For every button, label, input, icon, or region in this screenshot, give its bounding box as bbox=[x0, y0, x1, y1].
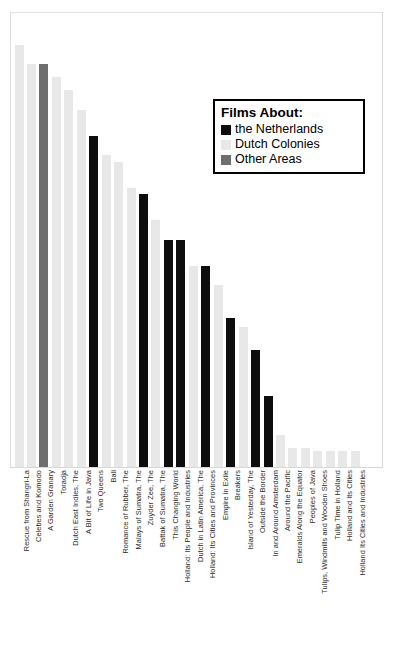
legend-entry: Dutch Colonies bbox=[221, 137, 357, 152]
legend-entries: the NetherlandsDutch ColoniesOther Areas bbox=[221, 122, 357, 167]
legend-entry-label: Dutch Colonies bbox=[235, 137, 320, 152]
x-tick-label: Bali bbox=[109, 470, 118, 640]
legend-entry-label: Other Areas bbox=[235, 152, 302, 167]
bar bbox=[326, 451, 335, 467]
bar bbox=[39, 64, 48, 467]
legend-color-swatch bbox=[221, 155, 231, 165]
bar bbox=[151, 220, 160, 467]
bar bbox=[189, 266, 198, 468]
bar bbox=[251, 350, 260, 467]
bar bbox=[226, 318, 235, 468]
legend-entry: Other Areas bbox=[221, 152, 357, 167]
x-tick-label: Malays of Sumatra, The bbox=[134, 470, 143, 640]
bar bbox=[77, 110, 86, 468]
x-tick-label: Zuyder Zee, The bbox=[146, 470, 155, 640]
bar bbox=[176, 240, 185, 468]
bar bbox=[338, 451, 347, 467]
x-tick-label: Holland and Its Cities bbox=[345, 470, 354, 640]
x-tick-label: Celebes and Komodo bbox=[34, 470, 43, 640]
bar bbox=[276, 435, 285, 468]
bar bbox=[288, 448, 297, 468]
bar bbox=[301, 448, 310, 468]
bar-series-container bbox=[11, 13, 382, 467]
x-tick-label: A Garden Granary bbox=[46, 470, 55, 640]
legend-color-swatch bbox=[221, 140, 231, 150]
bar bbox=[89, 136, 98, 468]
x-tick-label: Around the Pacific bbox=[283, 470, 292, 640]
x-tick-label: Island of Yesterday, The bbox=[246, 470, 255, 640]
x-tick-label: Rescue from Shangri-La bbox=[22, 470, 31, 640]
x-tick-label: Tulip Time in Holland bbox=[333, 470, 342, 640]
x-tick-label: Peoples of Java bbox=[308, 470, 317, 640]
bar bbox=[201, 266, 210, 468]
x-tick-label: Empire in Exile bbox=[221, 470, 230, 640]
x-tick-label: In and Around Amsterdam bbox=[271, 470, 280, 640]
bar bbox=[214, 285, 223, 467]
bar bbox=[102, 155, 111, 467]
bar bbox=[139, 194, 148, 467]
x-tick-label: A Bit of Life in Java bbox=[84, 470, 93, 640]
bar bbox=[351, 451, 360, 467]
x-tick-label: Emeralds Along the Equator bbox=[295, 470, 304, 640]
x-axis-tick-labels: Rescue from Shangri-LaCelebes and Komodo… bbox=[10, 470, 383, 645]
x-tick-label: Dutch East Indies, The bbox=[71, 470, 80, 640]
plot-area bbox=[10, 12, 383, 468]
bar bbox=[127, 188, 136, 468]
x-tick-label: Holland Its Cities and Industries bbox=[358, 470, 367, 640]
bar bbox=[27, 64, 36, 467]
bar bbox=[313, 451, 322, 467]
x-tick-label: Romance of Rubber, The bbox=[121, 470, 130, 640]
bar bbox=[164, 240, 173, 468]
legend-color-swatch bbox=[221, 125, 231, 135]
x-tick-label: Toradja bbox=[59, 470, 68, 640]
x-tick-label: Holland: Its Cities and Provinces bbox=[208, 470, 217, 640]
bar bbox=[264, 396, 273, 468]
x-tick-label: Two Queens bbox=[96, 470, 105, 640]
x-tick-label: Holland: Its People and Industries bbox=[183, 470, 192, 640]
chart-legend: Films About: the NetherlandsDutch Coloni… bbox=[213, 99, 365, 174]
x-tick-label: This Changing World bbox=[171, 470, 180, 640]
bar bbox=[52, 77, 61, 467]
x-tick-label: Breakers bbox=[233, 470, 242, 640]
x-tick-label: Outside the Border bbox=[258, 470, 267, 640]
x-tick-label: Battak of Sumatra, The bbox=[158, 470, 167, 640]
bar bbox=[64, 90, 73, 467]
x-tick-label: Dutch in Latin America, The bbox=[196, 470, 205, 640]
bar bbox=[114, 162, 123, 468]
bar-chart-figure: Rescue from Shangri-LaCelebes and Komodo… bbox=[0, 0, 396, 649]
bar bbox=[15, 45, 24, 468]
bar bbox=[239, 327, 248, 467]
legend-entry-label: the Netherlands bbox=[235, 122, 323, 137]
legend-title: Films About: bbox=[221, 105, 357, 121]
legend-entry: the Netherlands bbox=[221, 122, 357, 137]
x-tick-label: Tulips, Windmills and Wooden Shoes bbox=[320, 470, 329, 640]
